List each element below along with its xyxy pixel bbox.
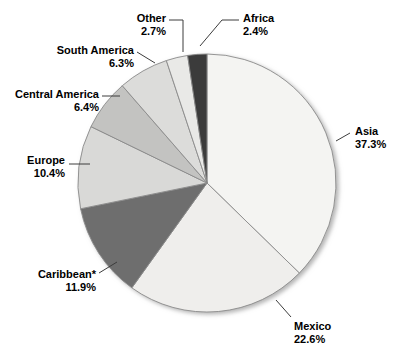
pie-label-other-percent: 2.7%: [137, 25, 166, 38]
pie-label-mexico: Mexico 22.6%: [294, 320, 331, 347]
pie-label-central-america-text: Central America: [15, 88, 99, 100]
pie-label-asia: Asia 37.3%: [355, 125, 386, 152]
pie-label-mexico-percent: 22.6%: [294, 333, 331, 346]
pie-label-other: Other 2.7%: [137, 12, 166, 39]
pie-label-mexico-text: Mexico: [294, 320, 331, 332]
pie-label-europe-percent: 10.4%: [27, 167, 65, 180]
leader-line-south-america: [137, 52, 155, 63]
leader-line-africa: [200, 20, 239, 46]
pie-label-central-america: Central America 6.4%: [15, 88, 99, 115]
leader-line-mexico: [276, 300, 291, 317]
pie-label-europe-text: Europe: [27, 154, 65, 166]
pie-chart: Other 2.7% Africa 2.4% South America 6.3…: [0, 0, 405, 353]
pie-label-caribbean-text: Caribbean*: [38, 268, 96, 280]
pie-label-asia-percent: 37.3%: [355, 138, 386, 151]
pie-label-asia-text: Asia: [355, 125, 378, 137]
pie-label-central-america-percent: 6.4%: [15, 101, 99, 114]
pie-label-south-america-text: South America: [57, 44, 134, 56]
pie-label-caribbean-percent: 11.9%: [38, 281, 96, 294]
pie-label-other-text: Other: [137, 12, 166, 24]
leader-line-other: [169, 20, 183, 52]
pie-label-africa-text: Africa: [243, 12, 274, 24]
pie-label-africa: Africa 2.4%: [243, 12, 274, 39]
pie-label-africa-percent: 2.4%: [243, 25, 274, 38]
pie-label-europe: Europe 10.4%: [27, 154, 65, 181]
pie-label-south-america: South America 6.3%: [57, 44, 134, 71]
pie-label-caribbean: Caribbean* 11.9%: [38, 268, 96, 295]
leader-line-asia: [336, 133, 350, 141]
pie-slice-group: [78, 54, 336, 312]
pie-label-south-america-percent: 6.3%: [57, 57, 134, 70]
